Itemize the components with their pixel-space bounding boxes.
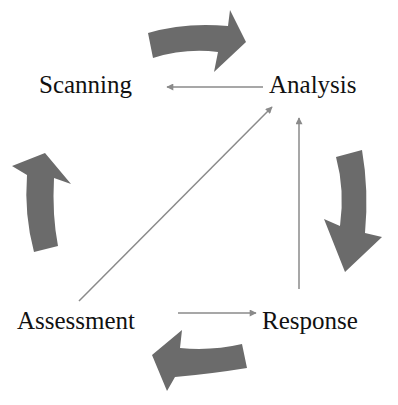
node-assessment: Assessment — [17, 308, 135, 333]
curved-arrow-up-icon — [12, 153, 71, 252]
curved-arrow-right-icon — [148, 10, 246, 72]
curved-arrow-left-icon — [152, 330, 247, 391]
node-scanning: Scanning — [39, 72, 132, 97]
curved-arrow-down-icon — [324, 150, 382, 272]
node-analysis: Analysis — [269, 72, 357, 97]
connector-layer — [0, 0, 398, 405]
sara-cycle-diagram: Scanning Analysis Assessment Response — [0, 0, 398, 405]
node-response: Response — [262, 308, 358, 333]
arrow-assessment-to-analysis — [79, 107, 272, 301]
